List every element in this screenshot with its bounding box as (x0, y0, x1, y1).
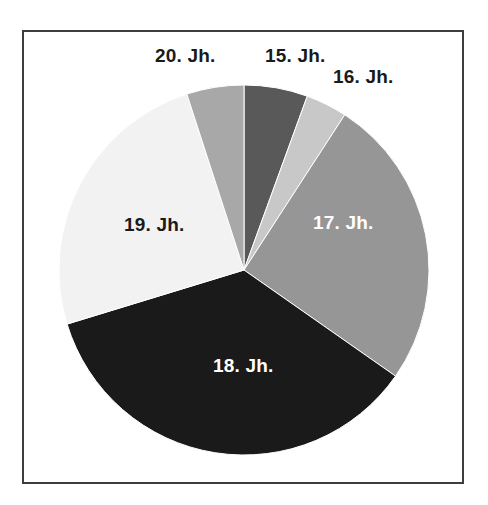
pie-slice-label-16jh: 16. Jh. (333, 67, 394, 86)
pie-chart-svg (0, 0, 488, 505)
pie-slice-label-18jh: 18. Jh. (213, 356, 274, 375)
pie-chart-figure: 20. Jh. 15. Jh. 16. Jh. 17. Jh. 18. Jh. … (0, 0, 488, 505)
pie-slice-label-15jh: 15. Jh. (265, 46, 326, 65)
pie-slice-label-19jh: 19. Jh. (124, 215, 185, 234)
pie-slice-label-17jh: 17. Jh. (313, 213, 374, 232)
pie-slice-label-20jh: 20. Jh. (155, 46, 216, 65)
pie-slice-group (59, 85, 429, 455)
